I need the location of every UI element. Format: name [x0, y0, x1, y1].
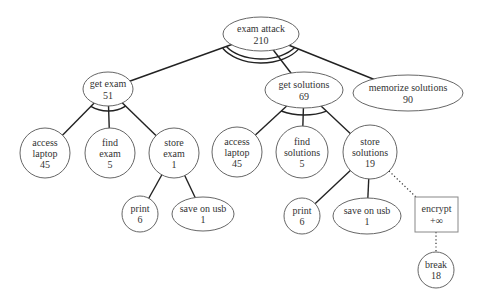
node-get-exam: get exam 51	[83, 72, 133, 106]
node-memorize-solutions: memorize solutions 90	[353, 75, 463, 111]
node-label: save on usb	[344, 205, 391, 216]
node-label: encrypt	[422, 203, 452, 214]
node-label: solutions	[352, 147, 388, 158]
edge-store-solutions-encrypt	[389, 171, 417, 198]
node-label: laptop	[225, 147, 250, 158]
node-label: break	[425, 259, 447, 270]
node-label: print	[131, 203, 150, 214]
node-value: 6	[138, 214, 143, 225]
node-label: access	[224, 136, 250, 147]
node-label: access	[32, 137, 58, 148]
node-label: solutions	[284, 147, 320, 158]
node-value: 6	[300, 216, 305, 227]
node-get-solutions: get solutions 69	[265, 72, 343, 108]
node-store-solutions: store solutions 19	[343, 125, 397, 179]
node-print-exam: print 6	[122, 196, 158, 232]
node-label: exam attack	[237, 23, 285, 34]
node-encrypt: encrypt +∞	[415, 197, 458, 232]
node-label: store	[164, 137, 184, 148]
node-exam-attack: exam attack 210	[223, 17, 299, 51]
node-value: 18	[431, 270, 441, 281]
node-label: get exam	[90, 78, 127, 89]
node-find-solutions: find solutions 5	[276, 126, 328, 178]
node-label: get solutions	[279, 79, 330, 90]
node-save-on-usb-solutions: save on usb 1	[333, 198, 401, 234]
node-value: 69	[299, 91, 309, 102]
node-label: exam	[99, 148, 121, 159]
node-value: 1	[201, 214, 206, 225]
node-value: 90	[403, 94, 413, 105]
node-label: print	[293, 205, 312, 216]
node-print-solutions: print 6	[284, 198, 320, 234]
node-value: 45	[232, 158, 242, 169]
node-label: find	[102, 137, 118, 148]
node-label: memorize solutions	[369, 82, 448, 93]
node-value: 210	[254, 35, 269, 46]
node-label: store	[360, 136, 380, 147]
node-access-laptop-solutions: access laptop 45	[212, 127, 262, 177]
node-value: 19	[365, 158, 375, 169]
node-value: 1	[365, 216, 370, 227]
node-value: 51	[103, 90, 113, 101]
node-break: break 18	[418, 252, 454, 288]
node-value: 5	[300, 158, 305, 169]
node-label: exam	[163, 148, 185, 159]
node-label: save on usb	[180, 203, 227, 214]
node-value: 45	[40, 159, 50, 170]
node-value: +∞	[430, 215, 443, 226]
node-access-laptop-exam: access laptop 45	[20, 128, 70, 178]
node-label: laptop	[33, 148, 58, 159]
node-label: find	[294, 136, 310, 147]
node-save-on-usb-exam: save on usb 1	[172, 197, 234, 231]
attack-tree-diagram: exam attack 210 get exam 51 get solution…	[0, 0, 481, 301]
node-store-exam: store exam 1	[149, 128, 199, 178]
node-value: 5	[108, 159, 113, 170]
node-find-exam: find exam 5	[85, 128, 135, 178]
node-value: 1	[172, 159, 177, 170]
